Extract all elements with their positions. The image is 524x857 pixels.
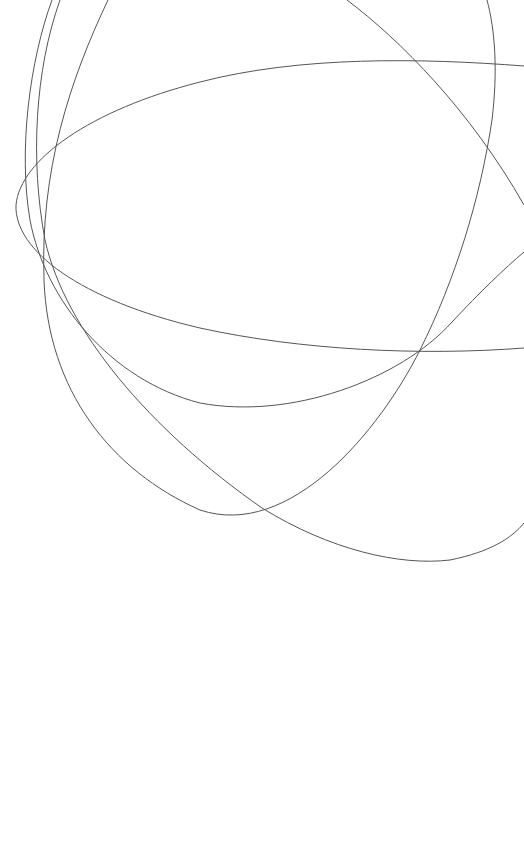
canvas-background bbox=[0, 0, 524, 857]
drawing-canvas bbox=[0, 0, 524, 857]
